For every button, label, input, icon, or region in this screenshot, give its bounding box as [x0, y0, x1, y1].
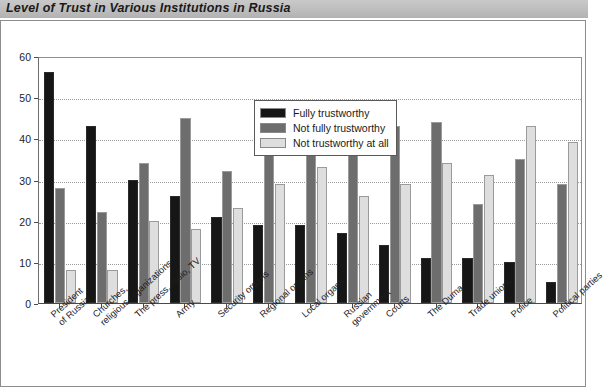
bar [526, 126, 536, 303]
bar [222, 171, 232, 303]
bar-group [416, 58, 458, 303]
chart-frame: Fully trustworthyNot fully trustworthyNo… [0, 20, 586, 387]
y-tick-label: 10 [5, 258, 31, 268]
bar [55, 188, 65, 303]
legend-swatch-icon [260, 138, 286, 148]
legend-item: Fully trustworthy [260, 106, 389, 120]
page-title: Level of Trust in Various Institutions i… [6, 1, 291, 15]
bar-group [290, 58, 332, 303]
title-band: Level of Trust in Various Institutions i… [0, 0, 588, 18]
bar [337, 233, 347, 303]
bar-group [457, 58, 499, 303]
bar [44, 72, 54, 303]
y-tick-mark [34, 263, 38, 264]
bar-group [499, 58, 541, 303]
legend-label: Fully trustworthy [293, 107, 369, 119]
bar-group [248, 58, 290, 303]
legend-label: Not fully trustworthy [293, 122, 385, 134]
bar [557, 184, 567, 303]
y-tick-mark [34, 57, 38, 58]
bar-series-container [39, 58, 581, 303]
y-tick-mark [34, 139, 38, 140]
y-tick-mark [34, 181, 38, 182]
legend-item: Not fully trustworthy [260, 121, 389, 135]
bar [421, 258, 431, 303]
legend-swatch-icon [260, 108, 286, 118]
bar [546, 282, 556, 303]
bar [359, 196, 369, 303]
y-tick-mark [34, 222, 38, 223]
bar [400, 184, 410, 303]
legend-item: Not trustworthy at all [260, 136, 389, 150]
bar [253, 225, 263, 303]
y-tick-label: 60 [5, 52, 31, 62]
y-tick-label: 0 [5, 299, 31, 309]
bar [568, 142, 578, 303]
bar [275, 184, 285, 303]
bar [442, 163, 452, 303]
bar [211, 217, 221, 303]
bar [462, 258, 472, 303]
bar [86, 126, 96, 303]
bar-group [541, 58, 583, 303]
bar [317, 167, 327, 303]
bar [348, 134, 358, 303]
y-tick-label: 50 [5, 93, 31, 103]
legend-swatch-icon [260, 123, 286, 133]
bar [515, 159, 525, 303]
bar-group [332, 58, 374, 303]
legend-label: Not trustworthy at all [293, 137, 389, 149]
y-tick-label: 40 [5, 134, 31, 144]
bar [97, 212, 107, 303]
bar-group [374, 58, 416, 303]
bar-group [81, 58, 123, 303]
x-axis-labels: Presidentof RussiaChurches,religious org… [38, 304, 582, 389]
y-tick-mark [34, 98, 38, 99]
bar [484, 175, 494, 303]
y-tick-label: 30 [5, 176, 31, 186]
chart-legend: Fully trustworthyNot fully trustworthyNo… [254, 100, 397, 156]
bar [473, 204, 483, 303]
bar-group [39, 58, 81, 303]
plot-area: Fully trustworthyNot fully trustworthyNo… [38, 57, 582, 304]
bar-group [206, 58, 248, 303]
bar [431, 122, 441, 303]
y-tick-label: 20 [5, 217, 31, 227]
